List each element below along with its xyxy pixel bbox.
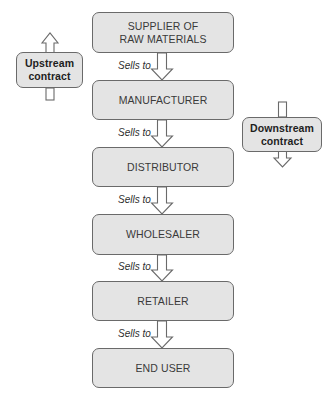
upstream-label: contract	[25, 70, 74, 83]
node-label: MANUFACTURER	[119, 94, 208, 107]
connector-label: Sells to	[118, 127, 151, 138]
node-manufacturer: MANUFACTURER	[92, 80, 234, 120]
downstream-contract-box: Downstream contract	[242, 117, 322, 152]
node-end-user: END USER	[92, 348, 234, 388]
connector-label: Sells to	[118, 328, 151, 339]
upstream-contract-box: Upstream contract	[16, 52, 83, 88]
up-arrow-icon	[42, 33, 58, 52]
node-label: WHOLESALER	[126, 228, 200, 241]
downstream-arrow-shaft	[279, 102, 287, 117]
node-wholesaler: WHOLESALER	[92, 214, 234, 255]
node-label: END USER	[135, 362, 190, 375]
down-arrow-icon	[152, 53, 173, 80]
node-label: SUPPLIER OF	[119, 20, 206, 33]
supply-chain-diagram: SUPPLIER OF RAW MATERIALS MANUFACTURER D…	[0, 0, 333, 403]
node-supplier: SUPPLIER OF RAW MATERIALS	[92, 12, 234, 53]
downstream-label: Downstream	[250, 122, 314, 135]
node-label: RAW MATERIALS	[119, 33, 206, 46]
node-label: DISTRIBUTOR	[127, 161, 199, 174]
down-arrow-icon	[274, 152, 291, 167]
connector-label: Sells to	[118, 261, 151, 272]
connector-label: Sells to	[118, 194, 151, 205]
upstream-arrow-shaft	[46, 88, 54, 100]
node-distributor: DISTRIBUTOR	[92, 147, 234, 187]
down-arrow-icon	[152, 255, 173, 281]
upstream-label: Upstream	[25, 57, 74, 70]
node-retailer: RETAILER	[92, 281, 234, 321]
connector-label: Sells to	[118, 60, 151, 71]
down-arrow-icon	[152, 187, 173, 214]
node-label: RETAILER	[137, 295, 188, 308]
downstream-label: contract	[250, 135, 314, 148]
down-arrow-icon	[152, 120, 173, 147]
down-arrow-icon	[152, 321, 173, 348]
